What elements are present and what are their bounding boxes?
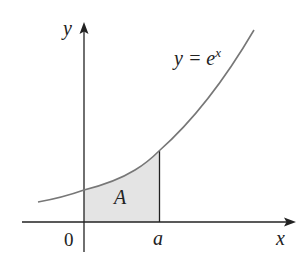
a-tick-label: a <box>153 228 163 248</box>
region-A-label: A <box>114 187 126 207</box>
x-axis-label: x <box>276 228 285 248</box>
y-axis-label: y <box>63 18 72 38</box>
origin-label: 0 <box>64 230 74 249</box>
curve-equation-label: y = ex <box>174 48 221 68</box>
area-under-exp-diagram: y y = ex A 0 a x <box>0 0 299 255</box>
diagram-canvas <box>0 0 299 255</box>
curve-equation-exponent: x <box>215 45 221 60</box>
curve-equation-lhs: y = e <box>174 47 215 69</box>
